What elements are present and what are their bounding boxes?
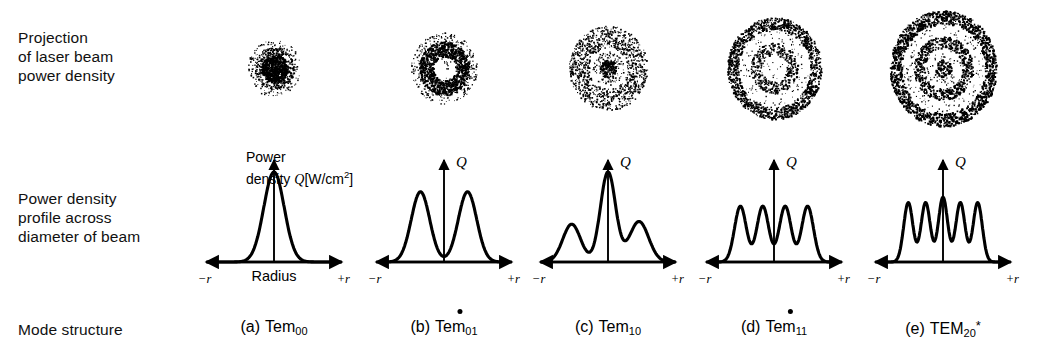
speckle-pattern-single-ring-hollow [394, 18, 494, 118]
mode-paren: (d) [741, 318, 761, 335]
mode-name-with-overdot: Tem [435, 318, 465, 336]
row-label-projection: Projection of laser beam power density [18, 28, 115, 85]
laser-mode-structure-figure: Projection of laser beam power density P… [0, 0, 1042, 352]
axis-label-q: Q [456, 154, 467, 171]
mode-subscript: 10 [629, 325, 641, 337]
beam-projection-a [186, 0, 362, 136]
overdot-marker [457, 309, 462, 314]
mode-paren: (e) [905, 320, 925, 337]
mode-paren: (c) [575, 318, 594, 335]
speckle-pattern-bullseye-dot-two-rings [876, 1, 1010, 135]
axis-label-positive-r: +r [507, 272, 520, 287]
beam-projection-c [520, 0, 696, 136]
mode-subscript: 01 [465, 325, 477, 337]
speckle-pattern-filled-disc [231, 25, 317, 111]
axis-label-negative-r: −r [368, 272, 381, 287]
beam-projection-b [356, 0, 532, 136]
mode-name: Tem [599, 318, 629, 335]
axis-label-positive-r: +r [337, 272, 350, 287]
axis-label-q: Q [786, 154, 797, 171]
mode-label-b: (b)Tem01 [410, 318, 477, 337]
axis-label-positive-r: +r [837, 272, 850, 287]
beam-projection-d [686, 0, 862, 136]
mode-name-with-overdot: Tem [765, 318, 795, 336]
power-density-profile-b: −r+rQ [356, 150, 532, 300]
row-label-profile: Power density profile across diameter of… [18, 189, 140, 246]
mode-column-e: −r+rQ(e)TEM20* [855, 0, 1031, 352]
mode-column-a: −r+rRadiusPowerdensity Q[W/cm2](a)Tem00 [186, 0, 362, 352]
axis-label-negative-r: −r [867, 272, 880, 287]
mode-subscript: 11 [796, 325, 807, 337]
overdot-marker [788, 309, 793, 314]
mode-label-e: (e)TEM20* [905, 318, 981, 339]
mode-paren: (b) [410, 318, 430, 335]
axis-label-positive-r: +r [1006, 272, 1019, 287]
row-label-mode-structure: Mode structure [18, 320, 123, 339]
mode-label-d: (d)Tem11 [741, 318, 807, 337]
mode-label-c: (c)Tem10 [575, 318, 641, 337]
mode-column-d: −r+rQ(d)Tem11 [686, 0, 862, 352]
power-density-profile-c: −r+rQ [520, 150, 696, 300]
axis-label-negative-r: −r [198, 272, 211, 287]
speckle-pattern-two-rings-hollow [712, 6, 836, 130]
power-density-profile-e: −r+rQ [855, 150, 1031, 300]
speckle-pattern-dot-and-ring [552, 12, 664, 124]
mode-name: Tem [265, 318, 295, 335]
axis-label-radius: Radius [251, 268, 296, 284]
axis-label-q: Q [955, 154, 966, 171]
axis-label-positive-r: +r [671, 272, 684, 287]
mode-paren: (a) [240, 318, 260, 335]
mode-asterisk: * [976, 318, 981, 333]
mode-subscript: 20 [964, 327, 976, 339]
mode-label-a: (a)Tem00 [240, 318, 307, 337]
axis-label-negative-r: −r [532, 272, 545, 287]
mode-column-b: −r+rQ(b)Tem01 [356, 0, 532, 352]
mode-subscript: 00 [295, 325, 307, 337]
power-density-profile-d: −r+rQ [686, 150, 862, 300]
beam-projection-e [855, 0, 1031, 136]
mode-name: TEM [930, 320, 964, 337]
mode-column-c: −r+rQ(c)Tem10 [520, 0, 696, 352]
axis-label-q: Q [620, 154, 631, 171]
axis-label-negative-r: −r [698, 272, 711, 287]
power-density-profile-a: −r+rRadiusPowerdensity Q[W/cm2] [186, 150, 362, 300]
